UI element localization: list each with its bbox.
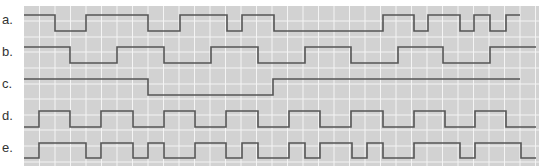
waveform-label: a. — [2, 12, 13, 27]
waveform-label: e. — [2, 140, 13, 155]
timing-diagram: a.b.c.d.e. — [0, 0, 546, 168]
waveform-label: b. — [2, 44, 13, 59]
waveform-label: c. — [2, 76, 12, 91]
waveform-label: d. — [2, 108, 13, 123]
waveform-labels: a.b.c.d.e. — [2, 12, 13, 155]
